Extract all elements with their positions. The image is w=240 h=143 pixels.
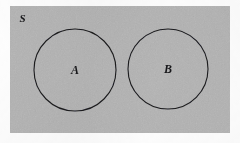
set-a-label: A	[70, 63, 79, 77]
set-b-label: B	[163, 62, 172, 76]
set-diagram-figure: S A B	[0, 0, 240, 143]
universal-set-label: S	[20, 12, 26, 24]
diagram-canvas: S A B	[0, 0, 240, 143]
universal-set-rectangle	[10, 6, 230, 133]
